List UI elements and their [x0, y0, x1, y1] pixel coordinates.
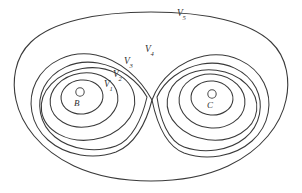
label-point-b-text: B: [74, 98, 80, 108]
label-v5: V5: [177, 9, 186, 20]
label-v1-sub: 1: [110, 85, 113, 92]
curve-v0-left-inner: [59, 78, 104, 116]
level-curve-figure: V1 V2 V3 V4 V5 B C: [0, 0, 302, 193]
critical-point-b-marker: [76, 88, 84, 96]
label-v3-base: V: [124, 56, 130, 66]
label-v1-base: V: [104, 79, 110, 89]
critical-point-c-marker: [208, 90, 216, 98]
label-v1: V1: [104, 80, 113, 91]
label-v4-base: V: [145, 44, 151, 54]
label-point-c: C: [207, 101, 213, 110]
label-v4-sub: 4: [151, 50, 154, 57]
label-v2: V2: [113, 70, 122, 81]
level-curve-svg: [0, 0, 302, 193]
label-v3: V3: [124, 57, 133, 68]
label-v3-sub: 3: [130, 62, 133, 69]
label-v2-base: V: [113, 69, 119, 79]
label-v5-base: V: [177, 8, 183, 18]
curve-v4-separatrix-left-lobe: [31, 54, 152, 156]
label-v4: V4: [145, 45, 154, 56]
curve-v3-left: [40, 62, 147, 149]
label-point-c-text: C: [207, 100, 213, 110]
curve-v5-outer-oval: [14, 12, 288, 181]
label-v2-sub: 2: [119, 75, 122, 82]
label-point-b: B: [74, 99, 80, 108]
label-v5-sub: 5: [183, 14, 186, 21]
